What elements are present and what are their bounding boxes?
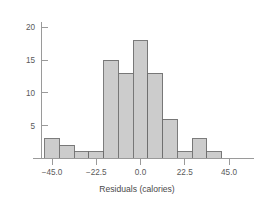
histogram-bar	[207, 152, 222, 159]
y-tick-label: 15	[26, 56, 36, 65]
x-ticks-group: −45.0−22.50.022.545.0	[42, 159, 238, 177]
histogram-bar	[104, 60, 119, 158]
y-tick-label: 20	[26, 23, 36, 32]
x-tick-label: −22.5	[86, 168, 107, 177]
y-tick-label: 5	[30, 122, 35, 131]
chart-canvas: 5101520 −45.0−22.50.022.545.0 Residuals …	[0, 0, 269, 202]
histogram-bar	[192, 139, 207, 159]
histogram-bar	[177, 152, 192, 159]
x-tick-label: 22.5	[177, 168, 193, 177]
y-tick-label: 10	[26, 89, 36, 98]
histogram-bar	[45, 139, 60, 159]
x-axis-title: Residuals (calories)	[99, 184, 175, 194]
histogram-bar	[163, 119, 178, 158]
histogram-bar	[89, 152, 104, 159]
x-tick-label: 45.0	[221, 168, 237, 177]
x-tick-label: −45.0	[42, 168, 63, 177]
bars-group	[45, 41, 222, 159]
histogram-bar	[59, 145, 74, 158]
histogram-chart: 5101520 −45.0−22.50.022.545.0 Residuals …	[0, 0, 269, 202]
histogram-bar	[74, 152, 89, 159]
histogram-bar	[133, 41, 148, 159]
x-tick-label: 0.0	[135, 168, 147, 177]
y-ticks-group: 5101520	[26, 23, 48, 130]
histogram-bar	[148, 73, 163, 158]
histogram-bar	[118, 73, 133, 158]
